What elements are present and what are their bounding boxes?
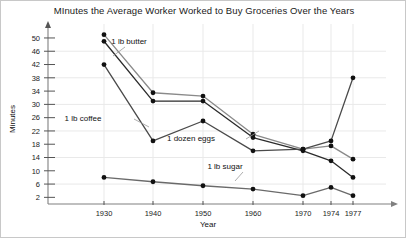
y-tick-label: 46: [32, 47, 40, 56]
y-axis-title: Minutes: [8, 105, 17, 133]
data-point: [151, 90, 156, 95]
data-point: [151, 99, 156, 104]
x-axis-title: Year: [200, 220, 217, 229]
data-point: [329, 139, 334, 144]
data-point: [351, 193, 356, 198]
series-annotation-label: 1 lb coffee: [65, 114, 102, 123]
series-annotation-label: 1 lb sugar: [207, 162, 242, 171]
data-point: [301, 147, 306, 152]
chart-plot-area: 261014182226303438424650 193019401950196…: [1, 1, 406, 238]
x-axis-arrow: [391, 201, 398, 207]
data-point: [351, 157, 356, 162]
x-tick-label: 1930: [96, 209, 113, 218]
sugar-leader-line: [235, 172, 243, 181]
data-point: [102, 175, 107, 180]
data-point: [351, 75, 356, 80]
data-point: [301, 193, 306, 198]
data-series: [104, 35, 353, 196]
y-tick-label: 26: [32, 113, 40, 122]
data-point: [201, 99, 206, 104]
y-tick-label: 50: [32, 34, 40, 43]
x-tick-label: 1960: [245, 209, 262, 218]
data-point: [329, 158, 334, 163]
y-tick-label: 34: [32, 87, 40, 96]
data-point: [351, 175, 356, 180]
data-point: [102, 39, 107, 44]
data-point: [201, 119, 206, 124]
data-point: [251, 148, 256, 153]
series-annotation-label: 1 dozen eggs: [167, 134, 215, 143]
x-tick-label: 1970: [295, 209, 312, 218]
y-tick-label: 14: [32, 153, 40, 162]
y-tick-label: 18: [32, 140, 40, 149]
coffee-leader-line: [134, 119, 149, 127]
y-axis-ticks: 261014182226303438424650: [32, 34, 55, 202]
annotation-leader-lines: [113, 47, 259, 181]
x-tick-label: 1950: [195, 209, 212, 218]
x-tick-label: 1977: [345, 209, 362, 218]
data-point: [329, 143, 334, 148]
y-tick-label: 42: [32, 60, 40, 69]
data-point: [102, 32, 107, 37]
y-tick-label: 38: [32, 74, 40, 83]
y-tick-label: 30: [32, 100, 40, 109]
data-point: [201, 94, 206, 99]
y-tick-label: 22: [32, 127, 40, 136]
x-tick-label: 1974: [323, 209, 340, 218]
data-point: [201, 183, 206, 188]
data-point: [151, 179, 156, 184]
y-axis-arrow: [45, 21, 51, 28]
y-tick-label: 2: [36, 193, 40, 202]
data-point: [102, 62, 107, 67]
y-tick-label: 10: [32, 167, 40, 176]
series-line: [104, 35, 353, 160]
chart-container: MInutes the Average Worker Worked to Buy…: [0, 0, 406, 238]
x-tick-label: 1940: [145, 209, 162, 218]
data-point: [251, 187, 256, 192]
data-point: [151, 139, 156, 144]
series-line: [104, 177, 353, 195]
series-annotation-label: 1 lb butter: [111, 37, 147, 46]
y-tick-label: 6: [36, 180, 40, 189]
data-point: [329, 185, 334, 190]
